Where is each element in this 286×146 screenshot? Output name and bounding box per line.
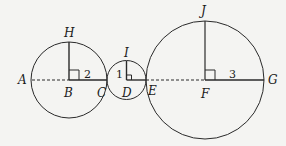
label-b: B — [63, 86, 73, 100]
radius-label-1: 1 — [116, 68, 123, 81]
label-e: E — [147, 84, 157, 98]
tangent-circles-diagram: A H B C I D E J F G 2 1 3 — [0, 0, 286, 146]
label-i: I — [123, 46, 129, 60]
radius-label-3: 3 — [229, 68, 236, 81]
label-h: H — [63, 26, 75, 40]
label-g: G — [268, 73, 278, 87]
right-angle-mark-d — [127, 75, 132, 80]
label-a: A — [17, 73, 27, 87]
right-angle-mark-f — [205, 70, 215, 80]
right-angle-mark-b — [69, 70, 79, 80]
label-j: J — [198, 4, 207, 18]
label-d: D — [121, 86, 132, 100]
label-f: F — [200, 87, 210, 101]
radius-label-2: 2 — [84, 68, 91, 81]
label-c: C — [97, 86, 106, 100]
